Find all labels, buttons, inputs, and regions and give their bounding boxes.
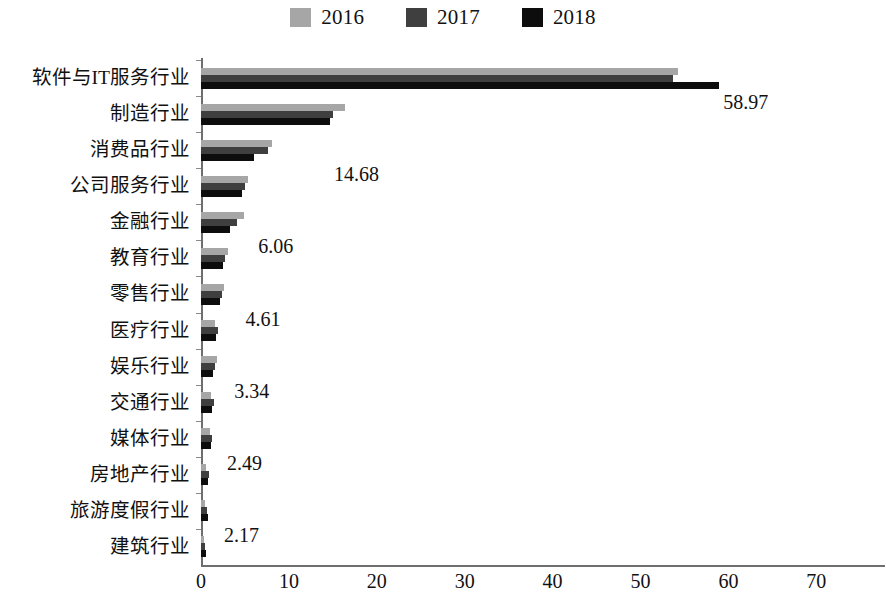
bar-2017[interactable] <box>201 255 225 262</box>
bar-2017[interactable] <box>201 75 673 82</box>
bar-2017[interactable] <box>201 147 268 154</box>
category-label: 媒体行业 <box>0 429 190 449</box>
y-axis-tick-mark <box>196 276 201 277</box>
x-axis-tick-label: 60 <box>718 571 738 591</box>
bar-2018[interactable] <box>201 154 254 161</box>
y-axis-tick-mark <box>196 240 201 241</box>
legend-swatch-icon-2016 <box>290 8 311 27</box>
category-label: 建筑行业 <box>0 537 190 557</box>
bar-group: 1.37 <box>201 356 886 377</box>
bar-group: 1.29 <box>201 392 886 413</box>
bar-2017[interactable] <box>201 399 214 406</box>
bar-2016[interactable] <box>201 212 244 219</box>
y-axis-tick-mark <box>196 385 201 386</box>
bar-2016[interactable] <box>201 428 210 435</box>
category-label: 房地产行业 <box>0 465 190 485</box>
bar-2016[interactable] <box>201 140 272 147</box>
bar-2016[interactable] <box>201 392 211 399</box>
bar-2017[interactable] <box>201 183 245 190</box>
bar-2016[interactable] <box>201 500 205 507</box>
category-label: 软件与IT服务行业 <box>0 68 190 88</box>
bar-2018[interactable] <box>201 514 208 521</box>
chart-legend: 201620172018 <box>0 0 886 34</box>
bar-2017[interactable] <box>201 543 205 550</box>
legend-swatch-icon-2017 <box>406 8 427 27</box>
x-axis-ticks: 010203040506070 <box>201 567 886 596</box>
y-axis-tick-mark <box>196 421 201 422</box>
category-label: 交通行业 <box>0 393 190 413</box>
bar-group: 3.34 <box>201 212 886 233</box>
bar-group: 0.80 <box>201 464 886 485</box>
category-label: 娱乐行业 <box>0 357 190 377</box>
bar-2017[interactable] <box>201 327 218 334</box>
category-label: 制造行业 <box>0 104 190 124</box>
legend-entry-2017[interactable]: 2017 <box>406 7 480 28</box>
bar-2018[interactable] <box>201 262 223 269</box>
category-label: 公司服务行业 <box>0 176 190 196</box>
category-label: 金融行业 <box>0 212 190 232</box>
bar-2018[interactable] <box>201 334 216 341</box>
bar-2017[interactable] <box>201 219 237 226</box>
bar-group: 1.16 <box>201 428 886 449</box>
bar-2018[interactable] <box>201 226 230 233</box>
bar-2018[interactable] <box>201 406 212 413</box>
bar-2018[interactable] <box>201 82 719 89</box>
bar-2016[interactable] <box>201 104 345 111</box>
bar-2016[interactable] <box>201 68 678 75</box>
category-label: 消费品行业 <box>0 140 190 160</box>
y-axis-tick-mark <box>196 60 201 61</box>
legend-swatch-icon-2018 <box>522 8 543 27</box>
y-axis-tick-mark <box>196 204 201 205</box>
category-axis-labels: 软件与IT服务行业制造行业消费品行业公司服务行业金融行业教育行业零售行业医疗行业… <box>0 60 196 565</box>
x-axis-tick-label: 0 <box>196 571 206 591</box>
bar-2016[interactable] <box>201 464 206 471</box>
bar-2017[interactable] <box>201 111 333 118</box>
bar-2017[interactable] <box>201 291 222 298</box>
y-axis-tick-mark <box>196 349 201 350</box>
legend-label: 2016 <box>321 7 364 28</box>
bar-chart: 201620172018 软件与IT服务行业制造行业消费品行业公司服务行业金融行… <box>0 0 886 596</box>
y-axis-tick-mark <box>196 168 201 169</box>
x-axis-tick-label: 10 <box>279 571 299 591</box>
bar-2018[interactable] <box>201 190 242 197</box>
y-axis-tick-mark <box>196 313 201 314</box>
bar-2018[interactable] <box>201 118 330 125</box>
bar-2017[interactable] <box>201 507 207 514</box>
bar-2016[interactable] <box>201 176 248 183</box>
bar-2016[interactable] <box>201 284 224 291</box>
bar-group: 1.71 <box>201 320 886 341</box>
bar-2018[interactable] <box>201 298 220 305</box>
bar-group: 58.97 <box>201 68 886 89</box>
x-axis-tick-label: 50 <box>631 571 651 591</box>
bar-group: 0.60 <box>201 536 886 557</box>
bar-2018[interactable] <box>201 478 208 485</box>
x-axis-tick-label: 20 <box>367 571 387 591</box>
bar-group: 2.17 <box>201 284 886 305</box>
y-axis-tick-mark <box>196 529 201 530</box>
bar-2016[interactable] <box>201 320 215 327</box>
category-label: 零售行业 <box>0 284 190 304</box>
bar-2017[interactable] <box>201 363 215 370</box>
plot-wrapper: 软件与IT服务行业制造行业消费品行业公司服务行业金融行业教育行业零售行业医疗行业… <box>0 34 886 596</box>
bar-group: 6.06 <box>201 140 886 161</box>
legend-label: 2017 <box>437 7 480 28</box>
category-label: 医疗行业 <box>0 321 190 341</box>
bar-group: 0.75 <box>201 500 886 521</box>
bar-2016[interactable] <box>201 248 228 255</box>
bar-2018[interactable] <box>201 442 211 449</box>
x-axis-tick-label: 40 <box>543 571 563 591</box>
x-axis-tick-label: 70 <box>806 571 826 591</box>
bar-group: 14.68 <box>201 104 886 125</box>
bar-group: 4.61 <box>201 176 886 197</box>
bar-2016[interactable] <box>201 536 204 543</box>
bar-2017[interactable] <box>201 471 209 478</box>
y-axis-tick-mark <box>196 132 201 133</box>
bar-group: 2.49 <box>201 248 886 269</box>
legend-entry-2016[interactable]: 2016 <box>290 7 364 28</box>
bar-2017[interactable] <box>201 435 212 442</box>
legend-entry-2018[interactable]: 2018 <box>522 7 596 28</box>
bar-2018[interactable] <box>201 370 213 377</box>
category-label: 旅游度假行业 <box>0 501 190 521</box>
bar-2018[interactable] <box>201 550 206 557</box>
bar-2016[interactable] <box>201 356 217 363</box>
